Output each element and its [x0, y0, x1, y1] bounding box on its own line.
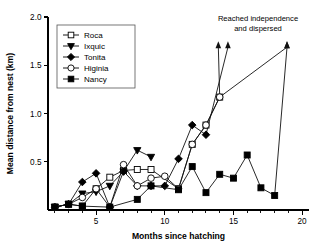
marker-filled-triangle-down — [147, 154, 154, 161]
x-tick-label: 5 — [94, 217, 99, 226]
legend-layer: RocaIxquicTonitaHiginiaNancy — [57, 25, 135, 88]
marker-open-circle — [203, 122, 210, 129]
marker-open-circle — [216, 94, 223, 101]
marker-filled-square — [148, 183, 154, 189]
marker-open-circle — [134, 183, 141, 190]
marker-open-square — [107, 174, 113, 180]
y-tick-label: 2.0 — [30, 13, 42, 22]
marker-open-circle — [68, 65, 74, 71]
legend-label: Roca — [84, 31, 103, 40]
marker-filled-square — [134, 196, 140, 202]
y-tick-label: 1.5 — [30, 61, 42, 70]
marker-filled-square — [272, 193, 278, 199]
marker-open-circle — [79, 194, 86, 201]
marker-filled-square — [230, 175, 236, 181]
marker-filled-square — [68, 76, 74, 82]
y-tick-label: 0.5 — [30, 158, 42, 167]
legend-label: Nancy — [84, 75, 107, 84]
dispersal-arrow-head — [225, 41, 231, 48]
dispersal-arrow-head — [216, 41, 222, 48]
marker-filled-square — [244, 152, 250, 158]
marker-filled-square — [66, 201, 72, 207]
marker-filled-diamond — [202, 131, 210, 139]
marker-open-square — [134, 166, 140, 172]
marker-filled-square — [258, 185, 264, 191]
marker-open-circle — [93, 185, 100, 192]
legend-label: Tonita — [84, 53, 106, 62]
marker-filled-diamond — [188, 121, 196, 129]
legend-label: Ixquic — [84, 42, 105, 51]
marker-filled-diamond — [175, 155, 183, 163]
marker-filled-diamond — [92, 170, 100, 178]
series-path — [55, 125, 206, 207]
marker-filled-diamond — [79, 178, 87, 186]
dispersal-arrow-shaft — [206, 47, 228, 135]
annotation-line-2: and dispersed — [234, 24, 282, 33]
marker-filled-square — [52, 204, 58, 210]
marker-filled-square — [217, 171, 223, 177]
chart-container: 0.51.01.52.05101520 Reached independence… — [0, 0, 325, 249]
x-axis-title: Months since hatching — [132, 231, 225, 241]
dispersal-arrow-shaft — [275, 47, 287, 195]
marker-filled-square — [107, 204, 113, 210]
marker-filled-square — [176, 187, 182, 193]
line-chart: 0.51.01.52.05101520 Reached independence… — [0, 0, 325, 249]
marker-open-circle — [148, 175, 155, 182]
x-tick-label: 10 — [160, 217, 170, 226]
marker-open-circle — [161, 173, 168, 180]
dispersal-arrow-shaft — [220, 47, 287, 97]
y-tick-label: 1.0 — [30, 110, 42, 119]
marker-filled-square — [189, 164, 195, 170]
marker-open-circle — [120, 161, 127, 168]
marker-filled-square — [203, 190, 209, 196]
annotation-line-1: Reached independence — [218, 14, 298, 23]
x-tick-label: 15 — [229, 217, 239, 226]
marker-filled-triangle-down — [134, 148, 141, 155]
marker-open-square — [148, 166, 154, 172]
dispersal-arrow-shaft — [218, 47, 219, 97]
marker-open-circle — [189, 141, 196, 148]
x-tick-label: 20 — [298, 217, 308, 226]
marker-filled-square — [79, 203, 85, 209]
dispersal-arrow-head — [284, 41, 290, 48]
annotation-layer: Reached independenceand dispersed — [218, 14, 298, 33]
y-axis-title: Mean distance from nest (km) — [5, 53, 15, 174]
legend-label: Higinia — [84, 64, 109, 73]
marker-open-square — [68, 32, 74, 38]
